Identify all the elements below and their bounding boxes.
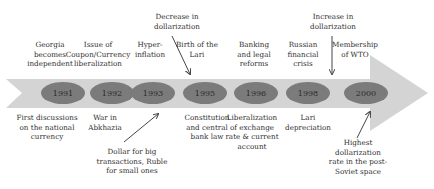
- year-1991: 1991: [41, 82, 85, 104]
- year-1996: 1996: [234, 82, 278, 104]
- label-hyperinflation: Hyper- inflation: [135, 40, 165, 59]
- label-banking-reforms: Banking and legal reforms: [237, 40, 271, 69]
- year-1992: 1992: [90, 82, 134, 104]
- year-1998: 1998: [286, 82, 330, 104]
- year-1993: 1993: [131, 82, 175, 104]
- label-liberalization: Liberalization of exchange rate & curren…: [225, 113, 278, 151]
- annotation-dollar-ruble: Dollar for big transactions, Ruble for s…: [97, 147, 168, 176]
- annotation-highest-dollarization: Highest dollarization rate in the post- …: [329, 138, 387, 176]
- year-1995: 1995: [183, 82, 227, 104]
- label-wto-membership: Membership of WTO: [332, 40, 378, 59]
- label-lari-depreciation: Lari depreciation: [285, 113, 331, 132]
- label-coupon-issue: Issue of Coupon/Currency liberalization: [66, 40, 130, 69]
- year-2000: 2000: [344, 82, 388, 104]
- label-national-currency-discussions: First discussions on the national curren…: [16, 113, 77, 142]
- highest-arrow: [357, 112, 370, 138]
- label-constitution: Constitution and central bank law: [185, 113, 230, 142]
- label-war-abkhazia: War in Abkhazia: [88, 113, 121, 132]
- annotation-increase-dollarization: Increase in dollarization: [310, 12, 356, 31]
- dollar-ruble-arrow: [124, 114, 158, 142]
- annotation-decrease-dollarization: Decrease in dollarization: [154, 12, 200, 31]
- label-birth-of-lari: Birth of the Lari: [176, 40, 218, 59]
- label-russian-crisis: Russian financial crisis: [287, 40, 318, 69]
